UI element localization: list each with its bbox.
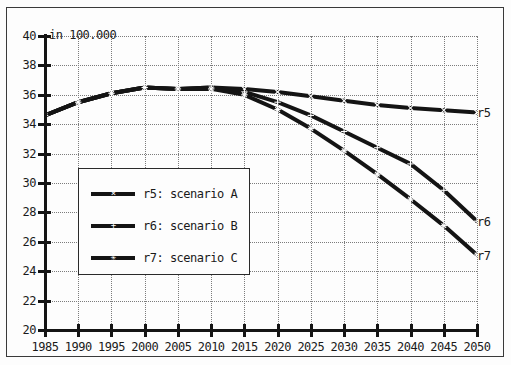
y-axis-label: 38 <box>10 59 36 71</box>
legend-entry-label: r7: scenario C <box>143 252 237 264</box>
data-point-marker <box>175 86 181 92</box>
legend-entry-r5: ×r5: scenario A <box>91 187 237 201</box>
x-axis-tick <box>144 324 147 337</box>
x-axis-tick <box>476 324 479 337</box>
y-axis-label: 30 <box>10 177 36 189</box>
y-axis-tick <box>38 94 51 97</box>
data-point-marker <box>274 106 280 112</box>
series-end-label-r5: r5 <box>477 107 490 119</box>
series-end-label-r6: r6 <box>477 216 490 228</box>
y-axis-tick <box>38 300 51 303</box>
x-axis <box>44 329 478 332</box>
legend-entry-label: r6: scenario B <box>143 220 237 232</box>
data-point-marker <box>241 92 247 98</box>
data-point-marker <box>75 99 81 105</box>
y-axis-tick <box>38 211 51 214</box>
legend-entry-r6: +r6: scenario B <box>91 219 237 233</box>
x-axis-tick <box>243 324 246 337</box>
x-axis-tick <box>210 324 213 337</box>
legend-line-sample-icon: × <box>91 192 135 196</box>
legend-box: ×r5: scenario A+r6: scenario B✳r7: scena… <box>78 168 250 275</box>
x-axis-tick <box>443 324 446 337</box>
y-axis-label: 40 <box>10 30 36 42</box>
y-axis-label: 22 <box>10 295 36 307</box>
legend-entry-r7: ✳r7: scenario C <box>91 251 237 265</box>
unit-caption: in 100.000 <box>49 29 116 41</box>
gridline-vertical <box>477 36 478 330</box>
data-point-marker <box>308 125 314 131</box>
chart-frame: 2022242628303234363840 19851990199520002… <box>6 7 504 357</box>
data-point-marker <box>374 171 380 177</box>
y-axis-label: 36 <box>10 89 36 101</box>
x-axis-tick <box>44 324 47 337</box>
legend-marker-icon: + <box>109 221 118 230</box>
legend-marker-icon: ✳ <box>109 253 118 262</box>
data-point-marker <box>108 90 114 96</box>
data-point-marker <box>407 196 413 202</box>
series-end-label-r7: r7 <box>477 250 490 262</box>
x-axis-tick <box>77 324 80 337</box>
data-point-marker <box>441 222 447 228</box>
y-axis-label: 20 <box>10 324 36 336</box>
y-axis-label: 26 <box>10 236 36 248</box>
y-axis-tick <box>38 182 51 185</box>
data-point-marker <box>142 84 148 90</box>
x-axis-tick <box>310 324 313 337</box>
legend-marker-icon: × <box>109 189 118 198</box>
data-point-marker <box>341 148 347 154</box>
chart-screenshot: 2022242628303234363840 19851990199520002… <box>0 0 511 365</box>
legend-line-sample-icon: ✳ <box>91 256 135 260</box>
y-axis-label: 32 <box>10 148 36 160</box>
y-axis-label: 24 <box>10 265 36 277</box>
y-axis-tick <box>38 270 51 273</box>
y-axis-tick <box>38 241 51 244</box>
y-axis-label: 28 <box>10 206 36 218</box>
y-axis-tick <box>38 64 51 67</box>
legend-line-sample-icon: + <box>91 224 135 228</box>
x-axis-tick <box>410 324 413 337</box>
legend-entry-label: r5: scenario A <box>143 188 237 200</box>
x-axis-tick <box>110 324 113 337</box>
y-axis-tick <box>38 123 51 126</box>
y-axis-tick <box>38 153 51 156</box>
x-axis-tick <box>277 324 280 337</box>
x-axis-tick <box>376 324 379 337</box>
x-axis-tick <box>343 324 346 337</box>
x-axis-tick <box>177 324 180 337</box>
y-axis-label: 34 <box>10 118 36 130</box>
data-point-marker <box>208 86 214 92</box>
x-axis-label: 2050 <box>455 341 499 353</box>
